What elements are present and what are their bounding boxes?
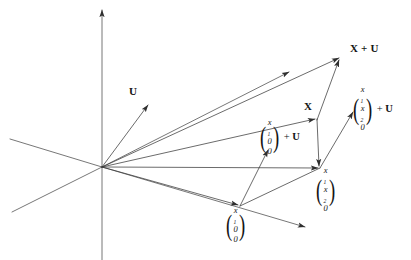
colvec-x1-0-0: ( x1 0 0 ) <box>224 206 247 244</box>
label-column-vector-x1-0-0: ( x1 0 0 ) <box>224 206 247 244</box>
paren-left: ( <box>353 96 359 122</box>
colvec-entries: x1 0 0 <box>267 118 272 156</box>
plus-u-suffix: + U <box>284 132 300 143</box>
label-column-vector-x1-x2-0-plus-u: ( x1 x2 0 ) + U <box>351 85 393 133</box>
colvec-x1-0-0-plus-u: ( x1 0 0 ) <box>258 118 281 156</box>
colvec-entries: x1 x2 0 <box>323 166 328 214</box>
vector-x1-0-0-to-plus-u <box>240 150 268 206</box>
label-column-vector-x1-x2-0: ( x1 x2 0 ) <box>314 166 337 214</box>
entry-row-3: 0 <box>268 147 272 157</box>
entry-row-3: 0 <box>324 204 328 214</box>
colvec-row: ( x1 0 0 ) + U <box>258 118 300 156</box>
lower-right-axis <box>102 167 305 227</box>
paren-right: ) <box>273 124 279 150</box>
diagram-canvas <box>0 0 411 260</box>
colvec-x1-x2-0-plus-u: ( x1 x2 0 ) <box>351 85 374 133</box>
colvec-entries: x1 0 0 <box>233 206 238 244</box>
edge-x-to-x1x2-0 <box>317 119 319 166</box>
plus-u-suffix: + U <box>377 104 393 115</box>
paren-left: ( <box>226 212 232 238</box>
left-diagonal-axis <box>10 139 102 167</box>
entry-row-3: 0 <box>361 123 365 133</box>
vector-origin-to-x-plus-u <box>102 58 339 167</box>
vector-addition-diagram: U X X + U ( x1 0 0 ) ( x1 0 0 ) <box>0 0 411 260</box>
paren-right: ) <box>239 212 245 238</box>
entry-row-2: x2 <box>324 185 328 204</box>
paren-left: ( <box>260 124 266 150</box>
vector-origin-to-x1-0-0 <box>102 167 238 205</box>
lower-left-diagonal-axis <box>12 167 102 212</box>
colvec-x1-x2-0: ( x1 x2 0 ) <box>314 166 337 214</box>
entry-row-1: x1 <box>361 85 365 104</box>
entry-row-1: x1 <box>324 166 328 185</box>
edge-x1x2-0-to-x1-0-0 <box>240 168 320 206</box>
colvec-entries: x1 x2 0 <box>360 85 365 133</box>
colvec-row: ( x1 x2 0 ) + U <box>351 85 393 133</box>
label-x-plus-u: X + U <box>350 43 379 54</box>
label-column-vector-x1-0-0-plus-u: ( x1 0 0 ) + U <box>258 118 300 156</box>
entry-row-1: x1 <box>268 118 272 137</box>
vector-x-to-x-plus-u <box>317 60 339 120</box>
paren-right: ) <box>366 96 372 122</box>
entry-row-3: 0 <box>234 235 238 245</box>
entry-row-2: x2 <box>361 104 365 123</box>
entry-row-1: x1 <box>234 206 238 225</box>
vector-x1x2-0-to-plus-u <box>320 112 353 168</box>
vector-origin-to-x1x2-0 <box>102 167 318 168</box>
paren-left: ( <box>316 177 322 203</box>
label-vector-x: X <box>304 101 312 112</box>
label-vector-u: U <box>129 86 137 97</box>
paren-right: ) <box>329 177 335 203</box>
vector-u <box>102 105 148 167</box>
